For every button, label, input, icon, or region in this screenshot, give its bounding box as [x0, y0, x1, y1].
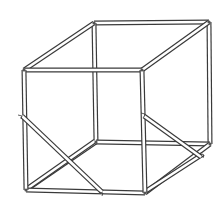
- right-side-diagonal-brace-rod-fill: [144, 116, 201, 157]
- corner-joint-tfl: [22, 68, 25, 71]
- corner-joint-tfr: [140, 68, 143, 71]
- bottom-front-edge: [26, 190, 145, 193]
- front-left-post: [24, 70, 26, 190]
- corner-joint-bfr: [143, 191, 146, 194]
- back-left-post: [94, 23, 96, 142]
- left-floor-diagonal-brace-rod-fill: [28, 141, 95, 188]
- back-right-post: [209, 22, 210, 144]
- back-right-post-rod-fill: [209, 22, 210, 144]
- left-floor-diagonal-brace: [28, 141, 95, 188]
- right-floor-diagonal-brace: [146, 154, 203, 191]
- top-right-edge-rod-fill: [142, 22, 209, 70]
- corner-joint-bfl: [24, 188, 27, 191]
- left-side-diagonal-brace: [22, 116, 102, 192]
- right-floor-diagonal-brace-rod-fill: [146, 154, 203, 191]
- front-right-post: [142, 70, 145, 193]
- right-side-diagonal-brace: [144, 116, 201, 157]
- corner-joint-tbl: [92, 21, 95, 24]
- left-side-diagonal-brace-rod-fill: [22, 116, 102, 192]
- top-back-edge: [94, 22, 209, 23]
- top-back-edge-rod-fill: [94, 22, 209, 23]
- corner-joint-tbr: [207, 20, 210, 23]
- brace-pin-mark-0: [18, 115, 22, 119]
- top-right-edge: [142, 22, 209, 70]
- bottom-back-edge: [96, 142, 210, 144]
- top-left-edge: [24, 23, 94, 70]
- corner-joint-bbl: [94, 140, 97, 143]
- cube-frame-drawing: [0, 0, 224, 213]
- top-left-edge-rod-fill: [24, 23, 94, 70]
- corner-joint-bbr: [208, 142, 211, 145]
